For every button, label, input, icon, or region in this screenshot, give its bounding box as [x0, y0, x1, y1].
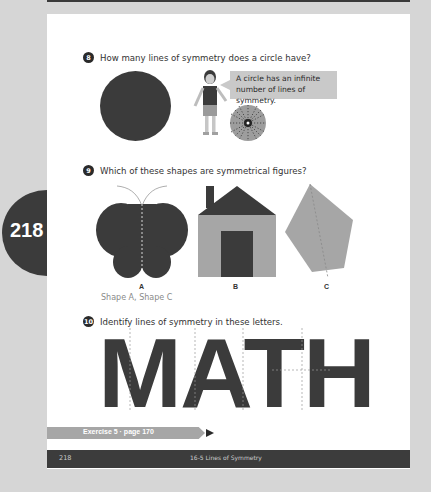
arrow-right-icon [206, 429, 214, 437]
shape-label-b: B [233, 283, 238, 290]
shape-a-butterfly [93, 184, 193, 286]
shape-b-house [196, 184, 278, 279]
footer-page-number: 218 [59, 454, 71, 462]
letter-symmetry-lines [90, 328, 340, 412]
shape-label-a: A [139, 283, 144, 290]
speech-bubble: A circle has an infinite number of lines… [230, 71, 337, 99]
top-bar [47, 0, 410, 2]
circle-shape [100, 71, 171, 141]
question-number-badge: 8 [83, 52, 94, 63]
footer-chapter-title: 16-5 Lines of Symmetry [190, 454, 262, 461]
question-8: 8 How many lines of symmetry does a circ… [83, 52, 311, 63]
speech-line-2: number of lines of symmetry. [236, 84, 337, 106]
question-9: 9 Which of these shapes are symmetrical … [83, 165, 307, 176]
shape-label-c: C [324, 283, 329, 290]
page-tab-number: 218 [10, 219, 43, 242]
question-text: Which of these shapes are symmetrical fi… [100, 166, 307, 176]
question-number-badge: 10 [83, 316, 94, 327]
exercise-reference-text: Exercise 5 · page 170 [83, 428, 154, 435]
speech-bubble-tail [220, 80, 230, 90]
circle-symmetry-lines-icon [229, 104, 267, 142]
exercise-reference-banner[interactable]: Exercise 5 · page 170 [47, 427, 205, 439]
question-text: How many lines of symmetry does a circle… [100, 53, 311, 63]
page-number-tab: 218 [0, 190, 47, 276]
question-number-badge: 9 [83, 165, 94, 176]
speech-line-1: A circle has an infinite [236, 73, 337, 84]
page-footer: 218 16-5 Lines of Symmetry [47, 450, 410, 468]
shape-c-pentagon [283, 182, 355, 280]
answer-q9: Shape A, Shape C [101, 293, 172, 302]
